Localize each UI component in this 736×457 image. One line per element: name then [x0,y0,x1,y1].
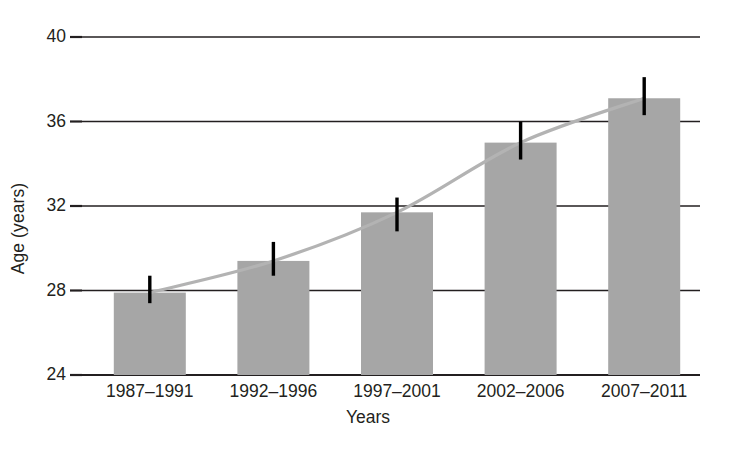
bar-3 [485,143,557,375]
y-tick-label: 36 [22,113,66,131]
x-tick-label: 2007–2011 [574,383,714,401]
bar-1 [237,261,309,375]
x-tick-label: 1997–2001 [327,383,467,401]
bar-0 [114,293,186,375]
bars-group [114,98,680,375]
y-tick-label: 32 [22,197,66,215]
x-tick-label: 1992–1996 [203,383,343,401]
y-tick-label: 28 [22,282,66,300]
x-tick-label: 2002–2006 [451,383,591,401]
bar-4 [608,98,680,375]
chart-figure: Age (years) Years 2428323640 1987–199119… [0,0,736,457]
axis-ticks-group [70,37,82,375]
bar-2 [361,212,433,375]
y-tick-label: 24 [22,366,66,384]
x-tick-label: 1987–1991 [80,383,220,401]
y-tick-label: 40 [22,28,66,46]
